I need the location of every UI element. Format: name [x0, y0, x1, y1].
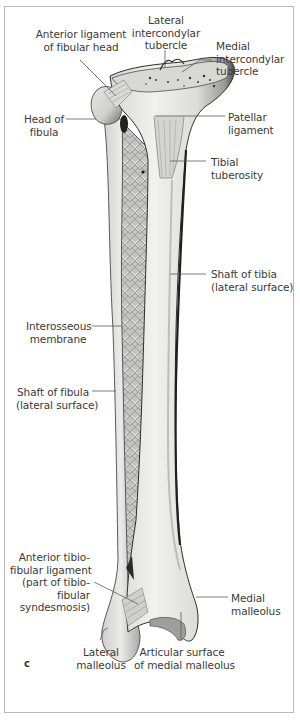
label-interosseous-membrane: Interosseous membrane	[26, 320, 90, 345]
label-anterior-ligament-fibular-head: Anterior ligament of fibular head	[30, 28, 132, 53]
label-tibial-tuberosity: Tibial tuberosity	[211, 156, 263, 181]
label-patellar-ligament: Patellar ligament	[228, 111, 274, 136]
label-medial-malleolus: Medial malleolus	[231, 592, 281, 617]
label-anterior-tibiofibular-ligament: Anterior tibio- fibular ligament (part o…	[10, 551, 90, 614]
tibia-fibula-illustration	[0, 0, 300, 728]
label-articular-surface-medial-malleolus: Articular surface of medial malleolus	[134, 646, 230, 671]
label-lateral-intercondylar-tubercle: Lateral intercondylar tubercle	[130, 14, 202, 52]
label-shaft-of-tibia: Shaft of tibia (lateral surface)	[211, 268, 293, 293]
label-medial-intercondylar-tubercle: Medial intercondylar tubercle	[216, 40, 284, 78]
label-lateral-malleolus: Lateral malleolus	[76, 646, 126, 671]
proximal-tibiofibular-gap	[120, 115, 128, 133]
panel-letter: c	[24, 658, 30, 669]
articular-surface-shape	[150, 617, 186, 640]
label-shaft-of-fibula: Shaft of fibula (lateral surface)	[16, 386, 90, 411]
label-head-of-fibula: Head of fibula	[22, 113, 66, 138]
